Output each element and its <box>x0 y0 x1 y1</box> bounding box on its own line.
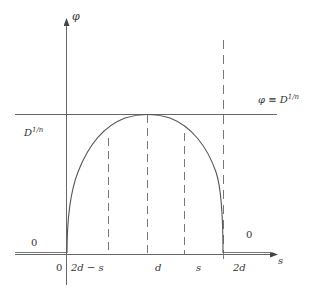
diagram-canvas: φ s D1/n φ ≡ D1/n 0 0 0 2d − s d s 2d <box>0 0 318 296</box>
phi-curve <box>67 115 223 254</box>
y-axis-label: φ <box>72 10 80 23</box>
zero-label-right: 0 <box>246 229 252 240</box>
level-label-right: φ ≡ D1/n <box>258 93 300 105</box>
diagram-figure: φ s D1/n φ ≡ D1/n 0 0 0 2d − s d s 2d <box>0 0 318 296</box>
zero-label-left: 0 <box>31 237 37 248</box>
tick-label-0: 0 <box>56 262 62 273</box>
tick-label-s: s <box>196 262 201 273</box>
tick-label-d: d <box>155 262 161 273</box>
tick-label-2d: 2d <box>232 262 246 273</box>
level-label-left: D1/n <box>23 126 44 138</box>
tick-label-2d-minus-s: 2d − s <box>70 262 104 273</box>
x-axis-label: s <box>278 255 283 266</box>
